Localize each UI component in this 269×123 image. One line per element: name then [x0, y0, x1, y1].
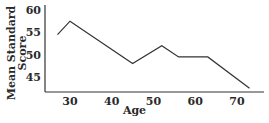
y-tick-label: 45	[26, 71, 41, 84]
y-tick-labels: 45505560	[26, 4, 42, 84]
x-axis-label: Age	[0, 104, 269, 117]
y-tick-label: 55	[26, 26, 41, 39]
y-tick-label: 50	[26, 49, 42, 62]
data-line	[58, 21, 250, 88]
y-tick-label: 60	[26, 4, 42, 17]
